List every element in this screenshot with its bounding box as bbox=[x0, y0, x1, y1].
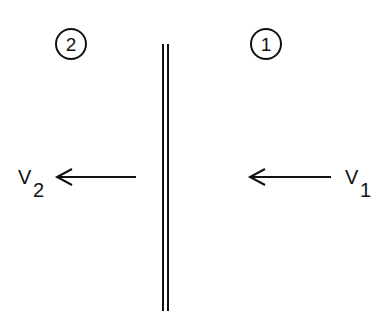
region-2-label: 2 bbox=[66, 34, 77, 55]
velocity-v2-arrow bbox=[57, 169, 136, 185]
v2-subscript: 2 bbox=[33, 179, 44, 201]
region-2-marker: 2 bbox=[56, 29, 86, 59]
velocity-v1-label: V 1 bbox=[345, 166, 371, 201]
v2-symbol: V bbox=[18, 166, 32, 188]
barrier-double-line bbox=[163, 44, 168, 311]
region-1-marker: 1 bbox=[251, 29, 281, 59]
velocity-v2-label: V 2 bbox=[18, 166, 44, 201]
velocity-v1-arrow bbox=[250, 169, 331, 185]
region-1-label: 1 bbox=[261, 34, 272, 55]
v1-subscript: 1 bbox=[360, 179, 371, 201]
v1-symbol: V bbox=[345, 166, 359, 188]
diagram-canvas: 2 1 V 2 V 1 bbox=[0, 0, 390, 320]
